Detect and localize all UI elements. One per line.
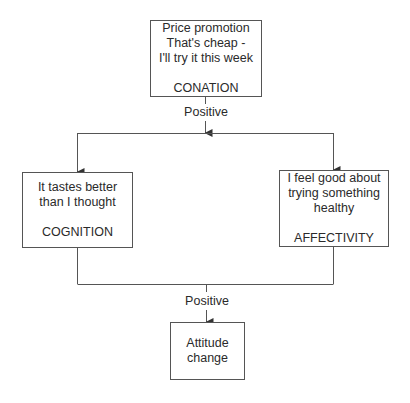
bottom-edge-label: Positive (176, 294, 238, 308)
affectivity-text-2: trying something (288, 186, 380, 201)
affectivity-category: AFFECTIVITY (294, 231, 374, 246)
affectivity-box: I feel good about trying something healt… (279, 170, 389, 247)
attitude-change-box: Attitude change (170, 322, 245, 380)
top-edge-label: Positive (175, 105, 237, 119)
conation-text-2: That's cheap - (167, 36, 246, 51)
conation-category: CONATION (173, 81, 238, 96)
cognition-text-2: than I thought (39, 195, 115, 210)
affectivity-text-3: healthy (314, 201, 354, 216)
conation-text-1: Price promotion (162, 21, 250, 36)
conation-text-3: I'll try it this week (159, 51, 253, 66)
cognition-category: COGNITION (42, 225, 113, 240)
conation-box: Price promotion That's cheap - I'll try … (150, 20, 262, 97)
cognition-box: It tastes better than I thought COGNITIO… (22, 172, 133, 248)
attitude-text-2: change (187, 351, 228, 366)
flowchart-canvas: Price promotion That's cheap - I'll try … (0, 0, 410, 403)
cognition-text-1: It tastes better (38, 180, 117, 195)
affectivity-text-1: I feel good about (287, 171, 380, 186)
attitude-text-1: Attitude (186, 336, 228, 351)
